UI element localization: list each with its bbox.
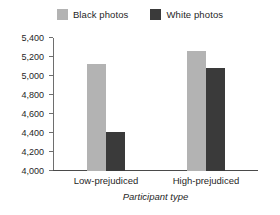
bar [187, 51, 206, 171]
bar [206, 68, 225, 171]
legend-label-black-photos: Black photos [73, 9, 129, 20]
legend-label-white-photos: White photos [166, 9, 223, 20]
legend-swatch-black-photos [57, 9, 68, 20]
y-tick-label: 4,200 [21, 147, 44, 157]
y-tick-label: 4,600 [21, 109, 44, 119]
legend-item-white-photos: White photos [150, 9, 223, 20]
y-tick-label: 4,000 [21, 166, 44, 176]
chart-legend: Black photos White photos [0, 9, 280, 20]
x-axis-category-label: High-prejudiced [173, 175, 240, 186]
y-tick: 4,400 [49, 132, 53, 133]
bar-chart: Black photos White photos 5,4005,2005,00… [0, 0, 280, 215]
y-tick: 4,000 [49, 170, 53, 171]
y-tick: 4,800 [49, 94, 53, 95]
legend-swatch-white-photos [150, 9, 161, 20]
y-tick: 4,200 [49, 151, 53, 152]
bars-layer [54, 38, 258, 171]
y-tick: 5,200 [49, 56, 53, 57]
legend-item-black-photos: Black photos [57, 9, 129, 20]
y-tick-label: 4,400 [21, 128, 44, 138]
bar-group [87, 38, 125, 171]
y-tick-label: 5,200 [21, 52, 44, 62]
bar-group [187, 38, 225, 171]
plot-area: 5,4005,2005,0004,8004,6004,4004,2004,000 [53, 38, 258, 171]
y-tick-label: 5,000 [21, 71, 44, 81]
y-tick: 5,000 [49, 75, 53, 76]
y-tick: 5,400 [49, 37, 53, 38]
bar [87, 64, 106, 171]
x-axis-category-label: Low-prejudiced [74, 175, 138, 186]
y-tick: 4,600 [49, 113, 53, 114]
y-tick-label: 5,400 [21, 33, 44, 43]
bar [106, 132, 125, 171]
x-axis-category-labels: Low-prejudicedHigh-prejudiced [54, 175, 258, 189]
y-tick-label: 4,800 [21, 90, 44, 100]
x-axis-title: Participant type [53, 191, 258, 202]
